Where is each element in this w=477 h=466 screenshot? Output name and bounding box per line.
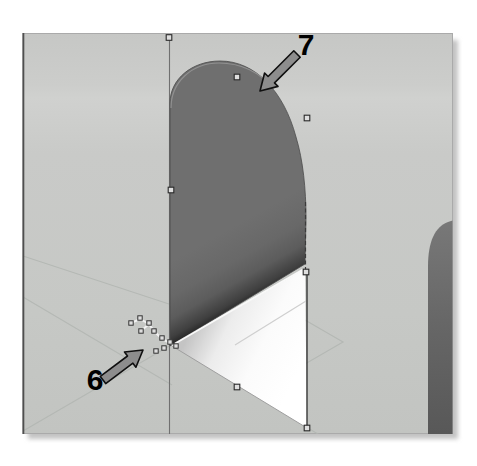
sketch-point-handle[interactable]	[174, 344, 178, 348]
vertex-handle[interactable]	[166, 35, 172, 41]
sketch-point-handle[interactable]	[162, 346, 166, 350]
callout-label-6: 6	[87, 363, 104, 396]
vertex-handle[interactable]	[304, 425, 310, 431]
vertex-handle[interactable]	[234, 74, 240, 80]
cad-screenshot: 7 6	[0, 0, 477, 466]
sketch-point-handle[interactable]	[154, 349, 158, 353]
sketch-point-handle[interactable]	[152, 329, 156, 333]
vertex-handle[interactable]	[303, 269, 309, 275]
callout-label-7: 7	[298, 28, 315, 61]
vertex-handle[interactable]	[168, 187, 174, 193]
sketch-point-handle[interactable]	[138, 316, 142, 320]
vertex-handle[interactable]	[234, 384, 240, 390]
sketch-point-handle[interactable]	[160, 336, 164, 340]
sketch-point-handle[interactable]	[129, 321, 133, 325]
vertex-handle[interactable]	[304, 115, 310, 121]
sketch-point-handle[interactable]	[147, 321, 151, 325]
sketch-point-handle[interactable]	[139, 329, 143, 333]
right-arched-surface[interactable]	[428, 221, 453, 435]
cad-viewport-svg: 7 6	[0, 0, 477, 466]
sketch-point-handle[interactable]	[168, 340, 172, 344]
